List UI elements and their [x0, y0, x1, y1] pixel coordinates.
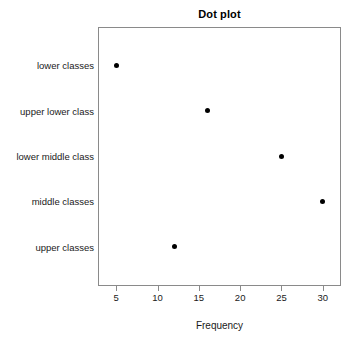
- x-axis-tick-mark: [199, 286, 200, 291]
- y-axis-label: middle classes: [32, 196, 94, 207]
- x-axis-tick-label: 20: [235, 292, 246, 303]
- dot-plot-figure: Dot plot lower classesupper lower classl…: [0, 0, 353, 344]
- x-axis-tick-label: 30: [318, 292, 329, 303]
- data-point: [279, 154, 284, 159]
- x-axis-tick-label: 10: [152, 292, 163, 303]
- x-axis-tick-label: 25: [276, 292, 287, 303]
- data-point: [114, 63, 119, 68]
- plot-panel: [98, 27, 341, 286]
- y-axis-label: upper lower class: [20, 105, 94, 116]
- data-point: [205, 108, 210, 113]
- x-axis-title: Frequency: [98, 320, 341, 331]
- x-axis-tick-mark: [240, 286, 241, 291]
- x-axis-tick-label: 5: [114, 292, 119, 303]
- x-axis-tick-mark: [281, 286, 282, 291]
- y-axis-label: lower middle class: [16, 151, 94, 162]
- chart-title: Dot plot: [98, 8, 341, 20]
- data-point: [172, 244, 177, 249]
- x-axis-tick-mark: [116, 286, 117, 291]
- y-axis-label: upper classes: [35, 241, 94, 252]
- y-axis-label: lower classes: [37, 60, 94, 71]
- x-axis-tick-mark: [323, 286, 324, 291]
- x-axis-tick-label: 15: [194, 292, 205, 303]
- x-axis-tick-mark: [158, 286, 159, 291]
